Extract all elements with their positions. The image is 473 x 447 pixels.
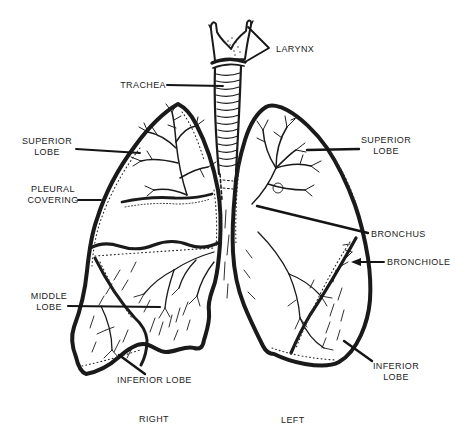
lung-diagram: LARYNX TRACHEA SUPERIOR LOBE PLEURAL COV… (0, 0, 473, 447)
superior-lobe-right-lung-label-line1: SUPERIOR (7, 136, 87, 147)
middle-lobe-label-line2: LOBE (9, 302, 89, 313)
bronchus-label: BRONCHUS (371, 229, 426, 240)
pleural-covering-label-line1: PLEURAL (13, 184, 93, 195)
middle-lobe-label-line1: MIDDLE (9, 291, 89, 302)
inferior-lobe-left-lung-label-line1: INFERIOR (356, 361, 436, 372)
inferior-lobe-right-lung-label: INFERIOR LOBE (117, 375, 192, 386)
trachea-leader-line (167, 85, 223, 86)
larynx-label: LARYNX (276, 44, 314, 55)
pleural-covering-label-line2: COVERING (13, 195, 93, 206)
inferior-lobe-left-lung-label-line2: LOBE (356, 372, 436, 383)
side-right-label: RIGHT (139, 414, 169, 425)
superior-lobe-left-lung-label-line2: LOBE (346, 146, 426, 157)
side-left-label: LEFT (281, 415, 305, 426)
middle-lobe-label: MIDDLE LOBE (9, 291, 89, 313)
superior-lobe-left-lung-label-line1: SUPERIOR (346, 135, 426, 146)
right-lung-shape (72, 104, 220, 374)
mediastinum-shading (224, 210, 229, 298)
superior-lobe-left-lung-label: SUPERIOR LOBE (346, 135, 426, 157)
superior-lobe-right-lung-label-line2: LOBE (7, 147, 87, 158)
pleural-covering-label: PLEURAL COVERING (13, 184, 93, 206)
trachea-label: TRACHEA (108, 80, 166, 91)
bronchiole-label: BRONCHIOLE (387, 257, 451, 268)
superior-lobe-right-lung-label: SUPERIOR LOBE (7, 136, 87, 158)
inferior-lobe-left-lung-label: INFERIOR LOBE (356, 361, 436, 383)
